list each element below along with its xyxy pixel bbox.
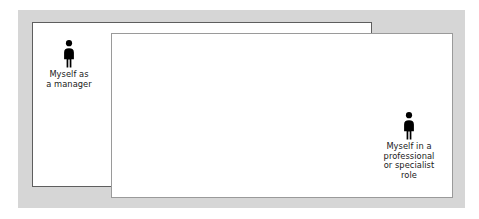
specialist-role-group: Myself in a professional or specialist r…: [369, 112, 449, 180]
person-pictogram-icon: [62, 40, 76, 68]
diagram-canvas: Myself as a manager Myself in a professi…: [0, 0, 479, 219]
person-pictogram-icon: [402, 112, 416, 140]
specialist-role-caption: Myself in a professional or specialist r…: [369, 142, 449, 180]
manager-role-caption: Myself as a manager: [29, 70, 109, 89]
manager-role-group: Myself as a manager: [29, 40, 109, 89]
